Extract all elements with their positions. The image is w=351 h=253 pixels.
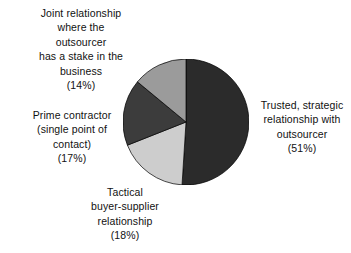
pie-label-prime-contractor: Prime contractor (single point of contac… (4, 108, 140, 166)
pie-label-tactical-buyer-supplier: Tactical buyer-supplier relationship (18… (58, 185, 192, 243)
pie-label-trusted-strategic: Trusted, strategic relationship with out… (255, 98, 349, 156)
pie-slice-trusted (182, 59, 249, 185)
pie-chart-figure: Joint relationship where the outsourcer … (0, 0, 351, 253)
pie-label-joint-relationship: Joint relationship where the outsourcer … (6, 6, 156, 92)
